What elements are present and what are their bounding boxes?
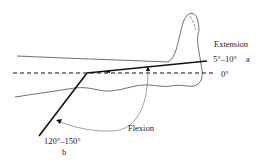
flexion-label: Flexion	[128, 123, 155, 133]
extension-label: Extension	[214, 39, 249, 49]
toes	[190, 16, 196, 30]
extension-marker-label: a	[246, 54, 250, 64]
extension-range-label: 5°–10°	[213, 54, 237, 64]
arc-arrowhead-icon	[56, 119, 62, 124]
leg-outline	[15, 13, 202, 97]
extension-line-a	[87, 61, 207, 73]
flexion-range-label: 120°–150°	[44, 136, 81, 146]
flexion-marker-label: b	[62, 147, 66, 157]
zero-degree-label: 0°	[221, 69, 229, 79]
foot-contour	[168, 13, 202, 86]
flexion-line-b	[39, 73, 87, 136]
upper-leg-contour	[17, 56, 168, 62]
knee-rom-diagram: Extension 5°–10° a 0° Flexion 120°–150° …	[0, 0, 267, 163]
flexion-arc	[58, 70, 148, 131]
